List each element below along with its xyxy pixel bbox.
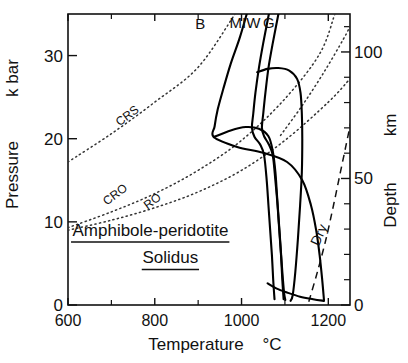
annotation-line-1: Amphibole-peridotite: [72, 221, 228, 240]
depth-tick-label: 0: [354, 296, 363, 315]
y-axis-title: Pressure: [3, 141, 22, 209]
annotation-line-2: Solidus: [143, 248, 199, 267]
x-tick-label: 1200: [311, 312, 347, 329]
y-axis-unit: k bar: [3, 59, 22, 97]
depth-axis-unit: km: [381, 114, 400, 137]
curve-label-miw: MIW: [230, 14, 262, 31]
figure-container: 60080010001200 0102030 050100 BMIWGCRSCR…: [0, 0, 408, 363]
curve-label-b: B: [195, 15, 205, 32]
x-tick-label: 800: [141, 312, 168, 329]
phase-diagram-chart: 60080010001200 0102030 050100 BMIWGCRSCR…: [0, 0, 408, 363]
y-tick-label: 10: [44, 213, 63, 232]
y-tick-label: 0: [54, 296, 63, 315]
depth-tick-label: 100: [354, 43, 382, 62]
x-axis-unit: °C: [262, 335, 281, 354]
y-tick-label: 20: [44, 130, 63, 149]
depth-tick-label: 50: [354, 169, 373, 188]
depth-axis-title: Depth: [381, 182, 400, 227]
x-tick-label: 1000: [224, 312, 260, 329]
curve-label-g: G: [263, 14, 275, 31]
y-tick-label: 30: [44, 47, 63, 66]
x-axis-title: Temperature: [148, 335, 243, 354]
